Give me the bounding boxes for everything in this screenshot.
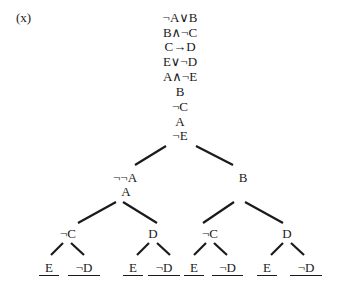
subbranch-node: ¬C <box>60 227 76 241</box>
closed-leaf: ¬D <box>148 261 180 276</box>
right-branch-node: B <box>239 171 248 185</box>
closed-leaf: E <box>257 261 277 276</box>
left-branch-node: A <box>121 185 130 199</box>
closed-leaf: E <box>123 261 143 276</box>
closed-leaf: ¬D <box>212 261 243 276</box>
closed-leaf: E <box>184 261 204 276</box>
left-branch-node: ¬¬A <box>113 171 137 185</box>
subbranch-node: ¬C <box>202 227 218 241</box>
closed-leaf: E <box>39 261 59 276</box>
tree-edges <box>0 0 340 285</box>
subbranch-node: D <box>282 227 291 241</box>
closed-leaf: ¬D <box>68 261 100 276</box>
closed-leaf: ¬D <box>290 261 322 276</box>
subbranch-node: D <box>148 227 157 241</box>
